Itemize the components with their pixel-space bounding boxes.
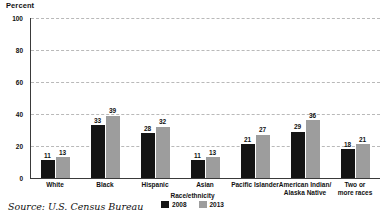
bar-value-label: 28 (138, 125, 158, 132)
legend-swatch (199, 201, 207, 208)
bar (156, 127, 170, 178)
y-axis-tick-label: 0 (1, 175, 23, 182)
y-axis-tick-label: 20 (1, 143, 23, 150)
bar (141, 133, 155, 178)
bar (41, 160, 55, 178)
bar-chart: Percent 0204060801001113White3339Black28… (0, 0, 385, 219)
legend-label: 2008 (172, 201, 186, 208)
bar-value-label: 13 (203, 149, 223, 156)
bar-value-label: 21 (353, 136, 373, 143)
bar-group: 2127Pacific Islander (230, 18, 280, 178)
y-axis-tick-label: 100 (1, 15, 23, 22)
bar (291, 132, 305, 178)
bar-group: 3339Black (80, 18, 130, 178)
bar-value-label: 36 (303, 112, 323, 119)
legend-title: Race/ethnicity (0, 192, 385, 199)
bar-value-label: 21 (238, 136, 258, 143)
bar (256, 135, 270, 178)
x-axis-line (30, 178, 380, 179)
bar-group: 1113Asian (180, 18, 230, 178)
legend-item: 2013 (199, 201, 224, 208)
bar (306, 120, 320, 178)
bar (91, 125, 105, 178)
bar-value-label: 29 (288, 123, 308, 130)
bar-value-label: 13 (53, 149, 73, 156)
plot-area: 0204060801001113White3339Black2832Hispan… (30, 18, 380, 178)
source-note: Source: U.S. Census Bureau (8, 201, 143, 212)
bar-value-label: 27 (253, 126, 273, 133)
bar-value-label: 39 (103, 107, 123, 114)
y-axis-tick-label: 80 (1, 47, 23, 54)
y-axis-tick-label: 40 (1, 111, 23, 118)
y-axis-title: Percent (6, 1, 34, 10)
y-axis-tick-label: 60 (1, 79, 23, 86)
bar-group: 2936American Indian/ Alaska Native (280, 18, 330, 178)
legend-label: 2013 (210, 201, 224, 208)
bar (56, 157, 70, 178)
legend-swatch (161, 201, 169, 208)
bar (206, 157, 220, 178)
bar-value-label: 33 (88, 117, 108, 124)
bar-value-label: 32 (153, 118, 173, 125)
bar (106, 116, 120, 178)
bar (356, 144, 370, 178)
legend-item: 2008 (161, 201, 186, 208)
bar (241, 144, 255, 178)
bar-group: 1821Two or more races (330, 18, 380, 178)
bar (341, 149, 355, 178)
bar (191, 160, 205, 178)
bar-group: 2832Hispanic (130, 18, 180, 178)
bar-group: 1113White (30, 18, 80, 178)
